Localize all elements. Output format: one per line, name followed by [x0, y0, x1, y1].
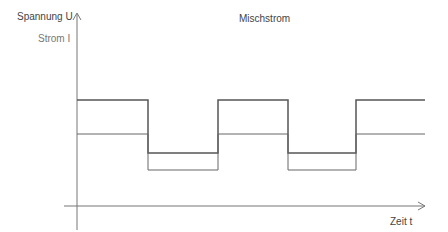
voltage-wave — [77, 100, 425, 153]
time-axis-label: Zeit t — [390, 216, 412, 227]
diagram-title: Mischstrom — [239, 13, 290, 24]
current-wave — [77, 134, 425, 170]
current-axis-label: Strom I — [38, 33, 70, 44]
voltage-axis-label: Spannung U — [17, 11, 73, 22]
